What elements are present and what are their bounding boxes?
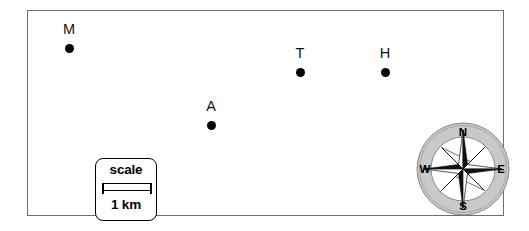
scale-distance-label: 1 km <box>96 197 156 212</box>
marker-dot <box>65 44 74 53</box>
map-frame: MATH scale 1 km <box>27 10 504 216</box>
scale-legend: scale 1 km <box>95 158 157 221</box>
marker-dot <box>296 68 305 77</box>
scale-bar-body <box>102 183 152 191</box>
scale-bar-graphic <box>102 183 152 194</box>
marker-label: M <box>59 21 79 37</box>
marker-label: A <box>201 98 221 114</box>
scale-bar-cap-left <box>102 183 104 194</box>
compass-label-south: S <box>459 200 467 212</box>
compass-label-west: W <box>420 163 431 175</box>
scale-title: scale <box>96 162 156 177</box>
compass-rose-icon: N E S W <box>416 122 510 216</box>
compass-label-east: E <box>497 163 505 175</box>
scale-bar-cap-right <box>150 183 152 194</box>
compass-label-north: N <box>459 126 467 138</box>
marker-label: T <box>290 45 310 61</box>
marker-dot <box>207 121 216 130</box>
marker-dot <box>381 68 390 77</box>
marker-label: H <box>375 45 395 61</box>
